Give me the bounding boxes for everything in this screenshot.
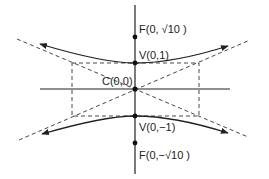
vertex-bottom-label: V(0,−1) (139, 121, 175, 133)
center-label: C(0,0) (102, 75, 133, 87)
vertex-top-point (133, 61, 138, 66)
upper-branch (40, 44, 135, 63)
vertex-top-label: V(0,1) (139, 49, 169, 61)
focus-top-label: F(0, √10 ) (139, 23, 187, 35)
asymptote-negative-slope (17, 39, 248, 137)
vertex-bottom-point (133, 114, 138, 119)
focus-bottom-point (133, 141, 138, 146)
lower-branch (42, 116, 135, 134)
focus-bottom-label: F(0,−√10 ) (139, 149, 190, 161)
hyperbola-diagram: F(0, √10 ) V(0,1) C(0,0) V(0,−1) F(0,−√1… (0, 0, 269, 179)
center-point (132, 86, 137, 91)
focus-top-point (133, 35, 138, 40)
